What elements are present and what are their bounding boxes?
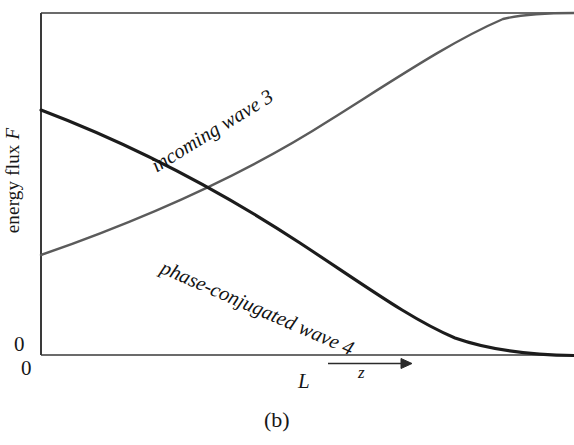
z-direction-arrow [328, 359, 412, 369]
figure-container: energy flux F 0 0 L z incoming wave 3 ph… [0, 0, 574, 445]
z-axis-label: z [358, 364, 365, 381]
y-axis-title-text: energy flux [3, 139, 24, 233]
panel-caption: (b) [264, 409, 290, 431]
chart-canvas [0, 0, 574, 445]
y-axis-title: energy flux F [0, 0, 26, 360]
y-axis-zero-label: 0 [14, 334, 25, 355]
x-axis-zero-label: 0 [21, 358, 32, 379]
curve-incoming-wave-3 [41, 13, 574, 255]
x-axis-length-label: L [298, 371, 310, 392]
y-axis-title-symbol: F [3, 127, 24, 139]
